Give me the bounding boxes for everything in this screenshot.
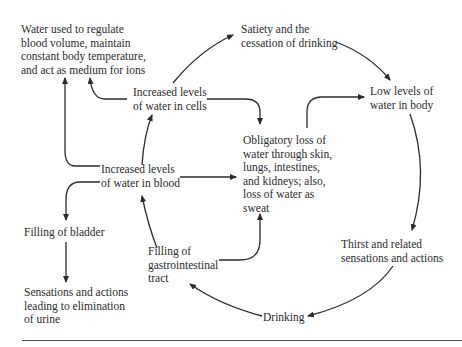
node-water-used: Water used to regulate blood volume, mai… (21, 23, 146, 77)
node-bladder: Filling of bladder (24, 226, 105, 240)
arrow-blood-to-water-used (65, 78, 100, 166)
water-regulation-diagram: Water used to regulate blood volume, mai… (0, 0, 462, 347)
arrow-gi-to-blood (142, 196, 157, 248)
node-thirst: Thirst and related sensations and action… (341, 238, 443, 265)
arrow-obligatory-to-low-levels (307, 97, 364, 128)
arrow-cells-to-water-used (90, 78, 127, 99)
arrow-satiety-to-low-levels (336, 42, 390, 80)
node-drinking: Drinking (263, 311, 305, 325)
arrow-cells-to-satiety (173, 35, 233, 83)
node-cells: Increased levels of water in cells (133, 86, 207, 113)
arrow-drinking-to-gi (190, 284, 262, 316)
arrow-thirst-to-drinking (308, 266, 393, 316)
arrow-gi-to-obligatory (219, 214, 260, 260)
node-blood: Increased levels of water in blood (101, 163, 180, 190)
node-low-levels: Low levels of water in body (370, 85, 433, 112)
node-urine: Sensations and actions leading to elimin… (24, 286, 128, 327)
arrow-blood-to-cells (142, 115, 152, 165)
bottom-rule-divider (22, 340, 462, 341)
arrow-cells-to-obligatory (207, 99, 260, 124)
node-obligatory-loss: Obligatory loss of water through skin, l… (243, 134, 332, 215)
node-gi-tract: Filling of gastrointestinal tract (148, 245, 218, 286)
arrow-blood-to-bladder (66, 182, 100, 220)
arrow-low-levels-to-thirst (410, 114, 421, 230)
node-satiety: Satiety and the cessation of drinking (241, 23, 337, 50)
